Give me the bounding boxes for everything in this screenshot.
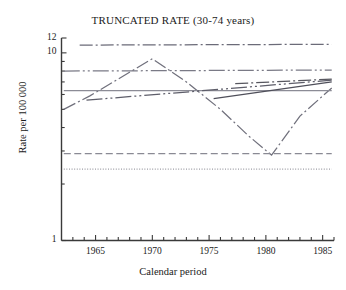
plot-area <box>0 0 346 290</box>
series-line-series-3-zigzag <box>64 59 332 155</box>
x-axis-title: Calendar period <box>0 266 346 277</box>
series-line-series-7-rising-short-upper <box>235 79 332 84</box>
x-tick-label: 1980 <box>252 246 280 256</box>
series-line-series-1-flat-high <box>80 44 332 45</box>
y-tick-label: 1 <box>36 234 57 244</box>
x-tick-label: 1965 <box>82 246 110 256</box>
y-axis-title: Rate per 100 000 <box>17 58 28 178</box>
y-tick-label: 12 <box>36 32 57 42</box>
x-tick-label: 1970 <box>138 246 166 256</box>
x-tick-label: 1985 <box>309 246 337 256</box>
series-lines <box>64 44 332 169</box>
series-line-series-2-flat-upper <box>64 70 332 71</box>
y-tick-label: 10 <box>36 46 57 56</box>
tick-marks <box>62 38 335 241</box>
axis-lines <box>62 38 335 241</box>
x-tick-label: 1975 <box>195 246 223 256</box>
chart-figure: TRUNCATED RATE (30-74 years) 19651970197… <box>0 0 346 290</box>
